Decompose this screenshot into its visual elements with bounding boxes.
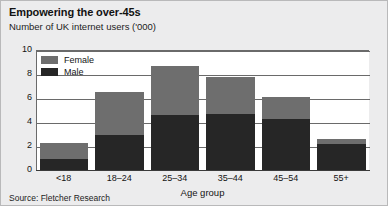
bar-segment-male	[206, 114, 255, 170]
bar-segment-male	[151, 115, 200, 170]
y-axis-tick-label: 10	[2, 45, 32, 54]
bar-stack	[40, 143, 89, 170]
bar-segment-male	[95, 135, 144, 170]
x-axis-tick-label: 35–44	[203, 173, 259, 183]
x-axis-tick-label: 45–54	[258, 173, 314, 183]
bar-stack	[317, 139, 366, 170]
x-axis-line	[36, 170, 370, 171]
bar-segment-female	[40, 143, 89, 159]
bar-segment-female	[95, 92, 144, 135]
y-axis-tick-label: 8	[2, 69, 32, 78]
y-axis-tick-label: 6	[2, 93, 32, 102]
gridline	[37, 123, 370, 124]
gridline	[37, 75, 370, 76]
legend-label: Male	[64, 67, 84, 77]
x-axis-tick-label: <18	[36, 173, 92, 183]
bar-segment-male	[40, 159, 89, 170]
x-axis-tick-label: 25–34	[147, 173, 203, 183]
y-axis: 0246810	[1, 1, 32, 206]
x-axis-tick-label: 18–24	[92, 173, 148, 183]
x-axis-tick-label: 55+	[314, 173, 370, 183]
source-note: Source: Fletcher Research	[9, 193, 110, 203]
chart-figure: Empowering the over-45s Number of UK int…	[0, 0, 388, 206]
legend-swatch-female	[41, 56, 58, 64]
y-axis-tick-label: 0	[2, 165, 32, 174]
y-axis-tick-label: 4	[2, 117, 32, 126]
bar-segment-female	[206, 77, 255, 114]
y-axis-tick-label: 2	[2, 141, 32, 150]
bar-segment-male	[262, 119, 311, 170]
bar-segment-male	[317, 144, 366, 170]
bar-stack	[262, 97, 311, 170]
gridline	[37, 51, 370, 52]
legend-label: Female	[64, 55, 94, 65]
bar-stack	[151, 66, 200, 170]
gridline	[37, 99, 370, 100]
bar-stack	[206, 77, 255, 170]
bar-segment-female	[151, 66, 200, 115]
bar-segment-female	[262, 97, 311, 119]
bar-stack	[95, 92, 144, 170]
legend-swatch-male	[41, 68, 58, 76]
